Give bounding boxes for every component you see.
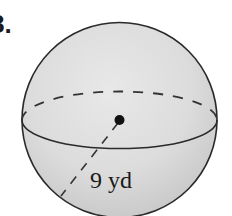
center-point — [115, 115, 125, 125]
radius-label: 9 yd — [90, 167, 132, 193]
sphere-diagram: 9 yd — [0, 0, 232, 216]
